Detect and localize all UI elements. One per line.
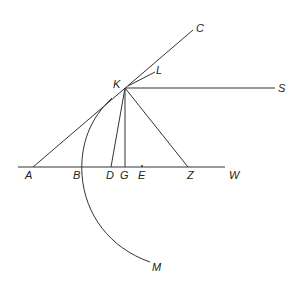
line-AC [33,30,193,167]
point-E-dot [141,165,143,167]
label-Z: Z [187,170,194,181]
label-L: L [156,65,162,76]
label-A: A [25,170,32,181]
label-M: M [152,262,161,273]
label-E: E [138,170,145,181]
label-D: D [106,170,114,181]
label-C: C [196,23,204,34]
label-K: K [113,79,120,90]
label-B: B [73,170,80,181]
line-KD [111,88,125,167]
diagram-lines [0,0,303,286]
label-G: G [120,170,129,181]
label-S: S [278,83,285,94]
line-KZ [125,88,188,167]
label-W: W [229,170,239,181]
geometry-diagram: C L K S A B D G E Z W M [0,0,303,286]
